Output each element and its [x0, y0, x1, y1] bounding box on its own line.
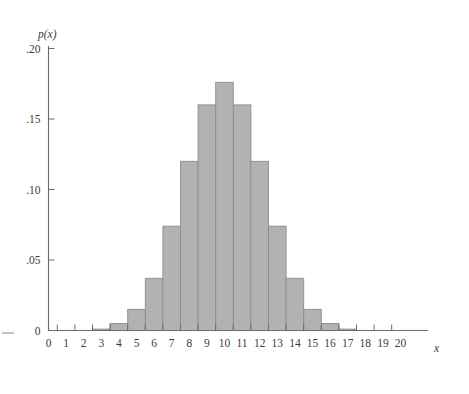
histogram-bar — [198, 105, 216, 331]
y-axis-ticks — [49, 49, 55, 261]
x-axis-tick-label: 15 — [307, 337, 319, 349]
histogram-figure: 0.05.10.15.20 01234567891011121314151617… — [0, 0, 469, 394]
x-axis-tick-label: 18 — [360, 337, 372, 349]
x-axis-title: x — [433, 342, 440, 354]
x-axis-tick-label: 4 — [116, 337, 122, 349]
x-axis-tick-label: 6 — [151, 337, 157, 349]
chart-canvas: 0.05.10.15.20 01234567891011121314151617… — [0, 0, 469, 394]
histogram-bar — [145, 278, 163, 330]
y-axis-tick-label: .05 — [26, 254, 41, 266]
x-axis-tick-label: 13 — [272, 337, 284, 349]
histogram-bar — [163, 226, 181, 330]
x-axis-tick-label: 5 — [134, 337, 140, 349]
histogram-bar — [128, 309, 146, 330]
y-axis-tick-label: 0 — [35, 325, 41, 337]
histogram-bar — [286, 278, 304, 330]
histogram-bar — [110, 323, 128, 330]
x-axis-tick-label: 8 — [186, 337, 192, 349]
x-axis-tick-label: 7 — [169, 337, 175, 349]
x-axis-tick-label: 19 — [377, 337, 389, 349]
y-axis-tick-label: .10 — [26, 184, 41, 196]
histogram-bar — [233, 105, 251, 331]
x-axis-tick-label: 1 — [63, 337, 69, 349]
x-axis-tick-label: 20 — [395, 337, 407, 349]
x-axis-tick-label: 3 — [98, 337, 104, 349]
histogram-bar — [251, 161, 269, 330]
x-axis-tick-label: 10 — [219, 337, 231, 349]
y-axis-tick-labels: 0.05.10.15.20 — [26, 43, 41, 337]
histogram-bar — [269, 226, 287, 330]
y-axis-tick-label: .15 — [26, 113, 41, 125]
y-axis-tick-label: .20 — [26, 43, 41, 55]
x-axis-tick-label: 12 — [254, 337, 266, 349]
x-axis-tick-label: 0 — [46, 337, 52, 349]
x-axis-tick-label: 9 — [204, 337, 210, 349]
histogram-bar — [181, 161, 199, 330]
x-axis-tick-label: 14 — [289, 337, 301, 349]
x-axis-tick-label: 2 — [81, 337, 87, 349]
histogram-bar — [304, 309, 322, 330]
x-axis-tick-label: 16 — [324, 337, 336, 349]
x-axis-tick-labels: 01234567891011121314151617181920 — [46, 337, 407, 349]
x-axis-tick-label: 17 — [342, 337, 354, 349]
histogram-bar — [321, 323, 339, 330]
histogram-bar — [216, 82, 234, 330]
y-axis-title: p(x) — [37, 28, 57, 41]
bar-series — [93, 82, 357, 330]
x-axis-tick-label: 11 — [237, 337, 248, 349]
